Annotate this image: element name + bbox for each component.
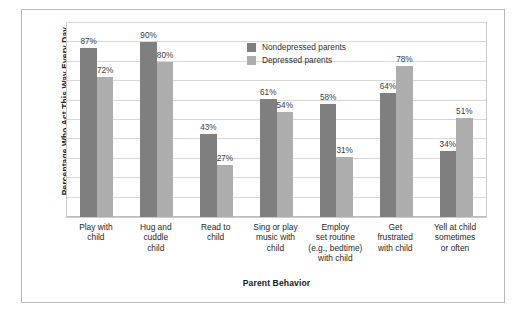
bar-value-label: 43%: [193, 123, 224, 132]
x-tick-label-line: music with: [242, 232, 310, 242]
x-tick-label-line: Employ: [301, 222, 369, 232]
bar: [440, 151, 457, 217]
x-tick-label-line: cuddle: [122, 232, 190, 242]
figure-frame: Percentage Who Act This Way Every Day 87…: [21, 9, 505, 303]
bar-value-label: 54%: [270, 101, 301, 110]
bar-value-label: 51%: [449, 107, 480, 116]
x-tick-label-line: Read to: [182, 222, 250, 232]
bar: [320, 104, 337, 217]
x-tick-label-line: child: [62, 232, 130, 242]
x-tick-label-line: Play with: [62, 222, 130, 232]
bar-value-label: 61%: [253, 88, 284, 97]
x-axis-title: Parent Behavior: [66, 278, 487, 288]
x-tick-label: Yell at childsometimesor often: [421, 222, 489, 253]
x-tick-label-line: child: [182, 232, 250, 242]
legend-entry-nondepressed: Nondepressed parents: [247, 42, 346, 52]
bar: [456, 118, 473, 217]
x-tick-label-line: Hug and: [122, 222, 190, 232]
x-tick-label: Play withchild: [62, 222, 130, 243]
x-tick-label-line: sometimes: [421, 232, 489, 242]
x-tick-label-line: Yell at child: [421, 222, 489, 232]
x-tick-label: Employset routine(e.g., bedtime)with chi…: [301, 222, 369, 264]
bar: [157, 62, 174, 217]
x-tick-label-line: (e.g., bedtime): [301, 243, 369, 253]
bar: [396, 66, 413, 217]
legend-label-nondepressed: Nondepressed parents: [262, 42, 346, 52]
legend-swatch-icon-nondepressed: [247, 43, 256, 52]
bar-value-label: 31%: [329, 146, 360, 155]
bar: [200, 134, 217, 217]
bar: [260, 99, 277, 217]
x-tick-label-line: set routine: [301, 232, 369, 242]
plot-area: 87%72%90%80%43%27%61%54%58%31%64%78%34%5…: [66, 22, 487, 218]
bar: [380, 93, 397, 217]
bar: [217, 165, 234, 217]
x-tick-label: Hug andcuddlechild: [122, 222, 190, 253]
x-tick-label-line: with child: [301, 253, 369, 263]
bar: [140, 42, 157, 217]
bar-value-label: 58%: [313, 93, 344, 102]
x-axis-tick-labels: Play withchildHug andcuddlechildRead toc…: [66, 222, 487, 274]
x-tick-label: Sing or playmusic withchild: [242, 222, 310, 253]
x-tick-label-line: with child: [361, 243, 429, 253]
bar-value-label: 27%: [210, 154, 241, 163]
bar-value-label: 78%: [389, 55, 420, 64]
bar-value-label: 87%: [73, 37, 104, 46]
legend-label-depressed: Depressed parents: [262, 55, 332, 65]
bar-value-label: 80%: [150, 51, 181, 60]
legend-swatch-icon-depressed: [247, 56, 256, 65]
legend-entry-depressed: Depressed parents: [247, 55, 346, 65]
bar-value-label: 72%: [90, 66, 121, 75]
bar: [336, 157, 353, 217]
x-tick-label-line: child: [242, 243, 310, 253]
x-tick-label-line: child: [122, 243, 190, 253]
x-tick-label-line: Get: [361, 222, 429, 232]
x-tick-label: Getfrustratedwith child: [361, 222, 429, 253]
chart-legend: Nondepressed parents Depressed parents: [247, 42, 346, 65]
x-tick-label-line: or often: [421, 243, 489, 253]
x-tick-label-line: Sing or play: [242, 222, 310, 232]
x-tick-label-line: frustrated: [361, 232, 429, 242]
x-tick-label: Read tochild: [182, 222, 250, 243]
bar: [277, 112, 294, 217]
bar: [97, 77, 114, 217]
bar-value-label: 90%: [133, 31, 164, 40]
